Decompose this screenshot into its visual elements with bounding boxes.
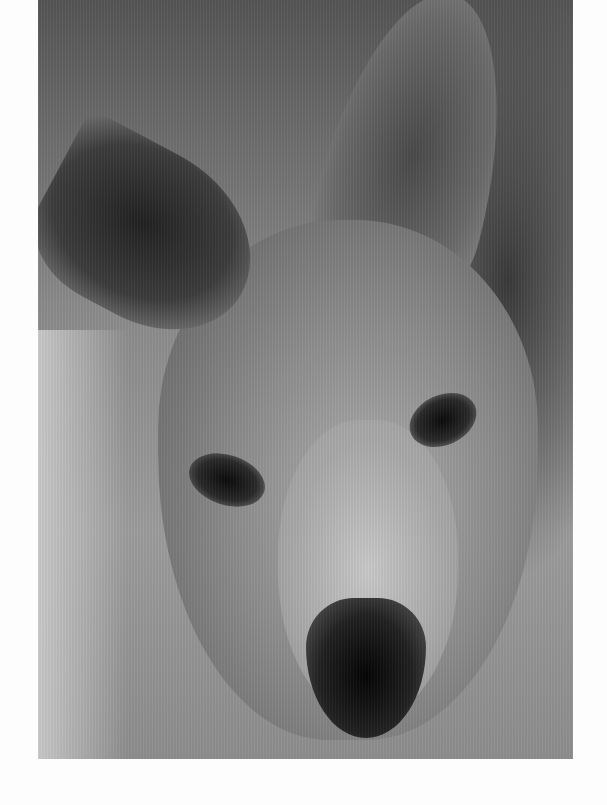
film-grain — [38, 0, 573, 759]
kangaroo-photo — [38, 0, 573, 759]
